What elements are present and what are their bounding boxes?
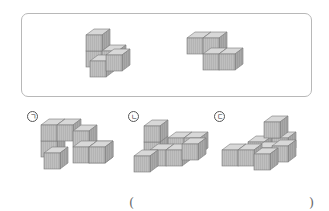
reference-piece-2 xyxy=(187,32,243,70)
option-a-shape xyxy=(41,119,113,169)
cube-scene xyxy=(0,0,329,211)
reference-piece-1 xyxy=(86,29,130,77)
option-a-label: ㄱ xyxy=(27,111,38,122)
option-b-label: ㄴ xyxy=(128,111,139,122)
option-b-shape xyxy=(134,120,208,172)
option-c-shape xyxy=(222,116,296,170)
answer-close-paren: ) xyxy=(309,195,314,210)
answer-open-paren: ( xyxy=(129,195,134,210)
option-c-label: ㄷ xyxy=(214,111,225,122)
answer-blank[interactable] xyxy=(140,195,305,211)
